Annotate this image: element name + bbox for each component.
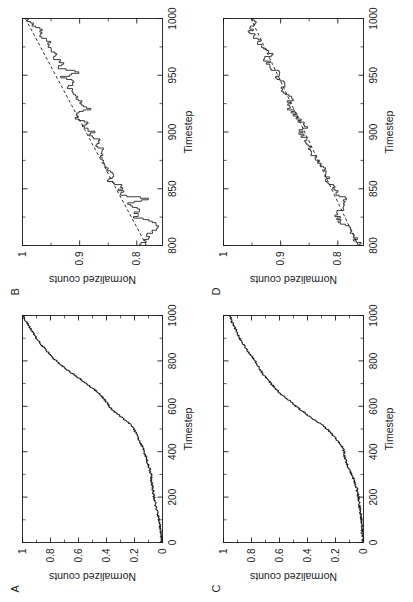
data-series-line <box>228 315 363 542</box>
y-tick-label: 0.6 <box>73 548 84 562</box>
panel-d: 80085090095010000.80.91TimestepNormalize… <box>209 4 407 297</box>
x-tick-label: 1000 <box>166 6 177 29</box>
y-axis-label: Normalized counts <box>49 570 136 582</box>
x-tick-label: 800 <box>367 352 378 369</box>
x-tick-label: 900 <box>166 123 177 140</box>
y-axis-label: Normalized counts <box>250 570 337 582</box>
figure-page: 0200400600800100000.20.40.60.81TimestepN… <box>0 0 413 602</box>
y-tick-label: 0.2 <box>129 548 140 562</box>
x-tick-label: 600 <box>166 397 177 414</box>
y-tick-label: 1 <box>17 548 28 554</box>
y-tick-label: 0.6 <box>274 548 285 562</box>
x-tick-label: 800 <box>166 236 177 253</box>
x-tick-label: 400 <box>166 442 177 459</box>
y-tick-label: 0.8 <box>131 251 142 265</box>
x-tick-label: 950 <box>367 66 378 83</box>
panel-letter-a: A <box>8 585 20 592</box>
x-tick-label: 1000 <box>166 303 177 326</box>
x-tick-label: 850 <box>367 179 378 196</box>
x-tick-label: 800 <box>367 236 378 253</box>
x-tick-label: 1000 <box>367 303 378 326</box>
y-tick-label: 0.4 <box>302 548 313 562</box>
x-tick-label: 950 <box>166 66 177 83</box>
x-axis-label: Timestep <box>382 407 394 450</box>
panel-a: 0200400600800100000.20.40.60.81TimestepN… <box>8 301 206 594</box>
trend-line <box>25 18 146 245</box>
data-series-line <box>22 315 162 542</box>
trend-line <box>250 18 357 245</box>
x-axis-label: Timestep <box>181 110 193 153</box>
x-tick-label: 600 <box>367 397 378 414</box>
y-tick-label: 0 <box>157 548 168 554</box>
y-tick-label: 0.8 <box>332 251 343 265</box>
y-tick-label: 0.9 <box>275 251 286 265</box>
x-axis-label: Timestep <box>181 407 193 450</box>
data-series-line <box>24 18 158 245</box>
x-tick-label: 1000 <box>367 6 378 29</box>
y-tick-label: 1 <box>17 251 28 257</box>
y-tick-label: 0.4 <box>101 548 112 562</box>
x-tick-label: 0 <box>166 539 177 545</box>
x-tick-label: 900 <box>367 123 378 140</box>
x-tick-label: 800 <box>166 352 177 369</box>
plot-frame <box>223 315 363 542</box>
x-axis-label: Timestep <box>382 110 394 153</box>
x-tick-label: 200 <box>166 488 177 505</box>
x-tick-label: 850 <box>166 179 177 196</box>
y-tick-label: 0.8 <box>246 548 257 562</box>
y-tick-label: 1 <box>218 548 229 554</box>
x-tick-label: 400 <box>367 442 378 459</box>
x-tick-label: 0 <box>367 539 378 545</box>
panel-letter-d: D <box>209 287 221 295</box>
panel-b: 80085090095010000.80.91TimestepNormalize… <box>8 4 206 297</box>
y-axis-label: Normalized counts <box>250 273 337 285</box>
x-tick-label: 200 <box>367 488 378 505</box>
panel-letter-c: C <box>209 584 221 592</box>
y-tick-label: 0.2 <box>330 548 341 562</box>
y-tick-label: 0.8 <box>45 548 56 562</box>
panel-c: 0200400600800100000.20.40.60.81TimestepN… <box>209 301 407 594</box>
y-axis-label: Normalized counts <box>49 273 136 285</box>
four-panel-figure: 0200400600800100000.20.40.60.81TimestepN… <box>0 0 413 602</box>
y-tick-label: 1 <box>218 251 229 257</box>
y-tick-label: 0.9 <box>74 251 85 265</box>
panel-letter-b: B <box>8 288 20 295</box>
y-tick-label: 0 <box>358 548 369 554</box>
plot-frame <box>22 315 162 542</box>
